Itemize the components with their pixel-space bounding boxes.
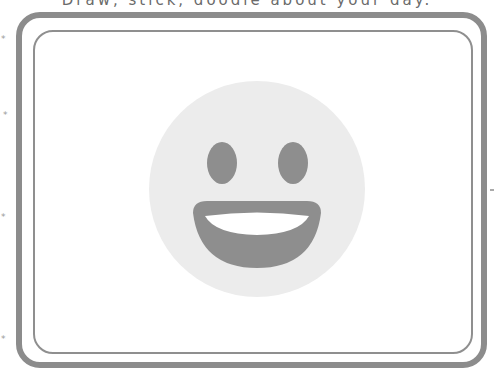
star-icon: * <box>1 335 6 344</box>
star-icon: * <box>3 111 8 120</box>
star-icon: * <box>1 213 6 222</box>
star-icon: * <box>1 35 6 44</box>
edge-mark <box>490 189 494 191</box>
prompt-text: Draw, stick, doodle about your day. <box>0 0 494 9</box>
grinning-face-icon <box>149 81 365 297</box>
